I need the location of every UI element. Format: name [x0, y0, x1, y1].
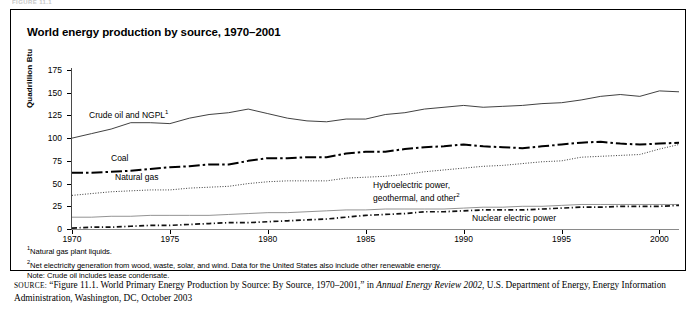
- series-line: [72, 205, 679, 228]
- series-label-natural-gas: Natural gas: [115, 172, 158, 182]
- source-note: SOURCE: “Figure 11.1. World Primary Ener…: [14, 279, 678, 305]
- series-label-coal: Coal: [111, 153, 128, 163]
- source-italic-title: Annual Energy Review 2002: [376, 280, 482, 290]
- scan-header-text: FIGURE 11.1: [12, 0, 132, 7]
- source-text-a: “Figure 11.1. World Primary Energy Produ…: [49, 280, 376, 290]
- chart-plot-area: Quadrillion Btu 025507510012515017519701…: [11, 10, 687, 272]
- series-label-hydroelectric: Hydroelectric power, geothermal, and oth…: [373, 180, 460, 203]
- chart-series-svg: [11, 10, 687, 272]
- figure-notes: 1Natural gas plant liquids. 2Net electri…: [27, 243, 441, 281]
- series-label-crude-oil: Crude oil and NGPL1: [89, 107, 168, 120]
- series-label-nuclear: Nuclear electric power: [472, 213, 556, 223]
- note-2: 2Net electricity generation from wood, w…: [27, 257, 441, 271]
- figure-page: FIGURE 11.1 World energy production by s…: [0, 0, 696, 316]
- figure-box: World energy production by source, 1970–…: [10, 9, 686, 271]
- note-1: 1Natural gas plant liquids.: [27, 243, 441, 257]
- source-label: SOURCE:: [14, 281, 47, 290]
